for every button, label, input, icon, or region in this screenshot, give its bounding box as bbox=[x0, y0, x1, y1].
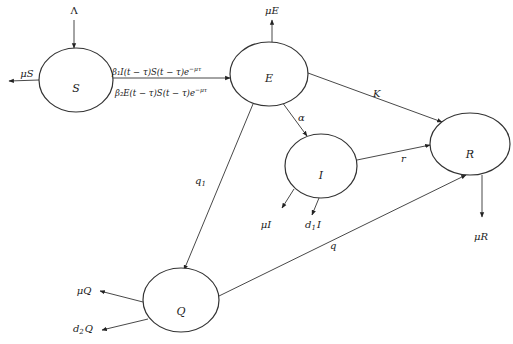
label-k: K bbox=[372, 88, 381, 99]
node-i-label: I bbox=[318, 169, 324, 182]
label-q1: q1 bbox=[195, 175, 206, 188]
edge-q-to-r bbox=[219, 175, 466, 296]
label-mu-r: μR bbox=[474, 231, 488, 242]
outflow-arrow-d1-i bbox=[312, 198, 319, 215]
label-mu-e: μE bbox=[265, 5, 279, 16]
label-d2-q: d2Q bbox=[73, 323, 93, 336]
outflow-arrow-mu-s bbox=[9, 80, 39, 81]
node-q-label: Q bbox=[176, 305, 185, 318]
seiqr-diagram: S E I R Q Λ β₁I(t − τ)S(t − τ)e−μτ β₂E(t… bbox=[0, 0, 513, 344]
node-q-circle bbox=[143, 268, 219, 332]
label-q: q bbox=[330, 240, 336, 251]
node-r-label: R bbox=[465, 148, 474, 161]
label-d1-i: d1I bbox=[305, 219, 322, 232]
edge-e-to-q bbox=[184, 104, 253, 270]
node-s-circle bbox=[39, 48, 113, 112]
label-r: r bbox=[401, 153, 407, 164]
label-s-to-e-rate-2: β₂E(t − τ)S(t − τ)e−μτ bbox=[114, 86, 208, 98]
edge-i-to-r bbox=[357, 145, 430, 160]
label-mu-s: μS bbox=[20, 68, 33, 79]
transition-labels: Λ β₁I(t − τ)S(t − τ)e−μτ β₂E(t − τ)S(t −… bbox=[69, 5, 407, 251]
label-s-to-e-rate-1: β₁I(t − τ)S(t − τ)e−μτ bbox=[111, 65, 202, 77]
outflow-arrow-mu-q bbox=[100, 291, 143, 302]
nodes: S E I R Q bbox=[39, 42, 510, 332]
outflow-arrow-d2-q bbox=[102, 319, 148, 330]
label-alpha: α bbox=[298, 112, 305, 123]
node-r-circle bbox=[430, 113, 510, 175]
node-e-label: E bbox=[264, 72, 273, 85]
label-mu-i: μI bbox=[261, 219, 272, 230]
node-s-label: S bbox=[72, 82, 80, 95]
node-i-circle bbox=[285, 134, 357, 198]
label-lambda: Λ bbox=[69, 5, 78, 16]
outflow-arrow-mu-i bbox=[282, 189, 294, 208]
label-mu-q: μQ bbox=[77, 285, 92, 296]
